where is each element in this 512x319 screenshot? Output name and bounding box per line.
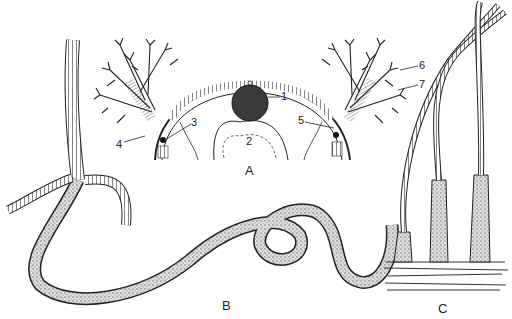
callout-3: 3 <box>191 117 197 128</box>
left-gill-tuft <box>94 38 178 123</box>
right-gill-tuft <box>322 38 406 123</box>
callout-4: 4 <box>116 139 122 150</box>
callout-1: 1 <box>281 91 287 102</box>
callout-5: 5 <box>298 115 304 126</box>
callout-2: 2 <box>246 136 252 147</box>
panel-b-worm <box>8 40 392 299</box>
callout-7: 7 <box>419 79 425 90</box>
illustration <box>0 0 512 319</box>
panel-label-b: B <box>222 299 231 312</box>
panel-label-c: C <box>438 302 447 315</box>
panel-label-a: A <box>245 164 254 177</box>
callout-6: 6 <box>419 60 425 71</box>
panel-c-tubes <box>384 2 508 290</box>
worm-anatomy-figure: 1 2 3 4 5 6 7 A B C <box>0 0 512 319</box>
panel-a-section <box>94 38 418 160</box>
